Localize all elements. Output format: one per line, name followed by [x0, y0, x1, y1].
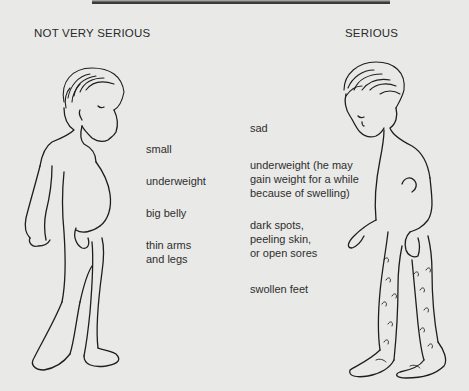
sign-dark-spots-peeling-skin-sores: dark spots, peeling skin, or open sores	[250, 218, 317, 260]
sign-big-belly: big belly	[146, 206, 186, 220]
child-severe-malnutrition-illustration	[340, 60, 469, 380]
child-figure-left-icon	[22, 62, 142, 377]
sign-small: small	[146, 142, 172, 156]
sign-sad: sad	[250, 121, 268, 135]
sign-underweight: underweight	[146, 174, 206, 188]
child-mild-malnutrition-illustration	[22, 62, 142, 377]
sign-thin-arms-and-legs: thin arms and legs	[146, 238, 191, 266]
top-divider-rule	[92, 0, 390, 4]
child-figure-right-icon	[340, 60, 469, 380]
sign-swollen-feet: swollen feet	[250, 282, 308, 296]
heading-not-very-serious: NOT VERY SERIOUS	[34, 27, 150, 39]
heading-serious: SERIOUS	[345, 27, 398, 39]
